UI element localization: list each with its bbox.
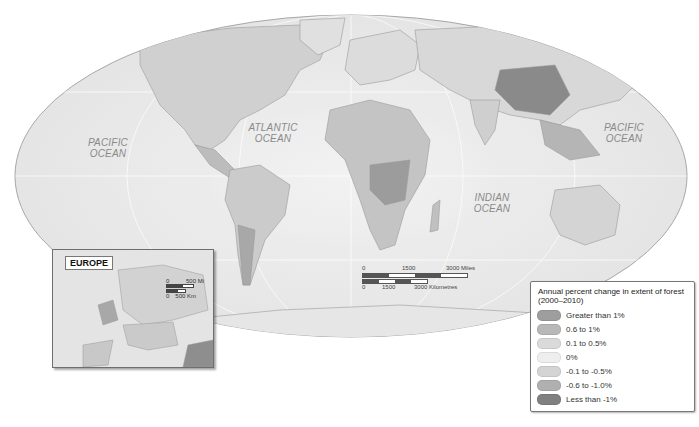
legend-item: Greater than 1% bbox=[537, 309, 625, 321]
legend-item: -0.1 to -0.5% bbox=[537, 365, 612, 377]
legend-title: Annual percent change in extent of fores… bbox=[538, 287, 688, 305]
legend-item: 0% bbox=[537, 351, 578, 363]
map-legend: Annual percent change in extent of fores… bbox=[530, 281, 695, 412]
ocean-label-pacific-west: PACIFIC OCEAN bbox=[78, 137, 138, 159]
inset-title: EUROPE bbox=[65, 256, 113, 270]
legend-swatch bbox=[537, 310, 561, 321]
inset-scale: 0500 Mi 0500 Km bbox=[166, 278, 204, 299]
legend-item: 0.6 to 1% bbox=[537, 323, 600, 335]
ocean-label-atlantic: ATLANTIC OCEAN bbox=[238, 122, 308, 144]
legend-swatch bbox=[537, 380, 561, 391]
map-scale-bar: 0 1500 3000 Miles 0 1500 3000 Kilometres bbox=[362, 265, 522, 291]
legend-item: Less than -1% bbox=[537, 393, 617, 405]
ocean-label-indian: INDIAN OCEAN bbox=[462, 192, 522, 214]
legend-swatch bbox=[537, 324, 561, 335]
ocean-label-pacific-east: PACIFIC OCEAN bbox=[594, 122, 654, 144]
legend-swatch bbox=[537, 366, 561, 377]
legend-swatch bbox=[537, 338, 561, 349]
legend-item: -0.6 to -1.0% bbox=[537, 379, 612, 391]
legend-item: 0.1 to 0.5% bbox=[537, 337, 606, 349]
legend-swatch bbox=[537, 352, 561, 363]
legend-swatch bbox=[537, 394, 561, 405]
europe-inset-map: EUROPE 0500 Mi 0500 Km bbox=[52, 249, 214, 368]
